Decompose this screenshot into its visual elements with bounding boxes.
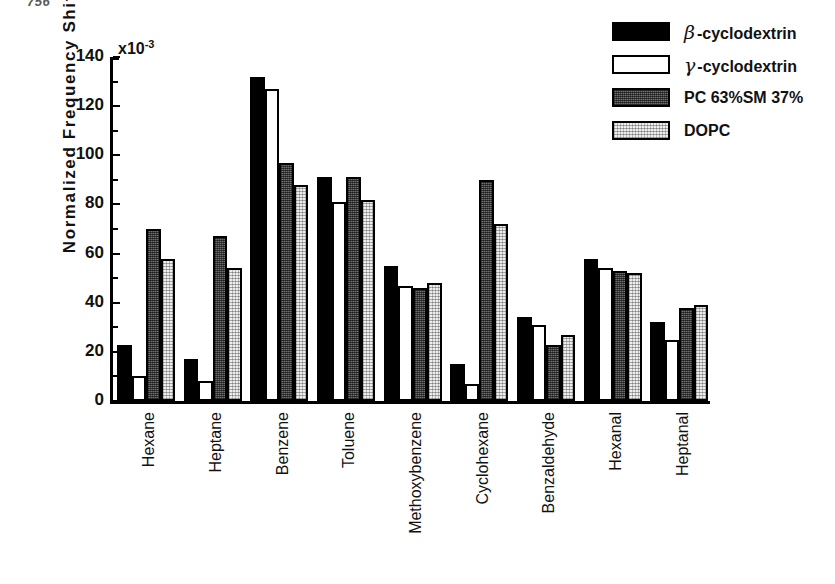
bar-group-methoxybenzene [384, 57, 447, 401]
legend-label-1: γ-cyclodextrin [684, 54, 797, 76]
bar-benzene-series-0 [250, 77, 265, 401]
bar-benzaldehyde-series-0 [517, 317, 532, 401]
page-folio: 756 [27, 0, 50, 9]
legend-row-1[interactable]: γ-cyclodextrin [612, 51, 832, 78]
x-category-label-hexane: Hexane [140, 412, 158, 467]
bar-methoxybenzene-series-1 [398, 286, 413, 401]
bar-toluene-series-2 [346, 177, 361, 401]
legend-greek-symbol-1: γ [684, 54, 697, 76]
bar-benzaldehyde-series-2 [546, 345, 561, 402]
legend-greek-symbol-0: β [684, 21, 697, 43]
x-category-label-heptane: Heptane [207, 412, 225, 473]
y-axis-title: Normalized Frequency Shift [60, 0, 80, 270]
y-tick-label-120: 120 [76, 95, 104, 115]
bar-hexane-series-1 [132, 376, 147, 401]
bar-hexanal-series-1 [598, 268, 613, 401]
x-category-label-cyclohexane: Cyclohexane [474, 412, 492, 505]
bar-hexane-series-0 [117, 345, 132, 402]
bar-benzaldehyde-series-1 [532, 325, 547, 401]
bar-toluene-series-0 [317, 177, 332, 401]
legend-row-3[interactable]: DOPC [612, 117, 832, 144]
y-tick-label-20: 20 [85, 341, 104, 361]
bar-heptane-series-3 [227, 268, 242, 401]
y-axis-scale-exponent: x10-3 [118, 38, 154, 58]
bar-benzaldehyde-series-3 [561, 335, 576, 401]
bar-benzene-series-1 [265, 89, 280, 401]
bar-cyclohexane-series-1 [465, 384, 480, 401]
bar-group-benzene [250, 57, 313, 401]
bar-benzene-series-3 [294, 185, 309, 401]
y-tick-label-0: 0 [95, 390, 104, 410]
y-tick-label-80: 80 [85, 193, 104, 213]
bar-methoxybenzene-series-0 [384, 266, 399, 401]
bar-heptane-series-1 [198, 381, 213, 401]
bar-hexane-series-3 [161, 259, 176, 402]
bar-heptanal-series-1 [665, 340, 680, 401]
legend-row-2[interactable]: PC 63%SM 37% [612, 84, 832, 111]
legend-label-3: DOPC [684, 122, 730, 140]
bar-heptanal-series-0 [650, 322, 665, 401]
legend-row-0[interactable]: β-cyclodextrin [612, 18, 832, 45]
bar-hexanal-series-2 [613, 271, 628, 401]
legend-label-0: β-cyclodextrin [684, 21, 797, 43]
bar-group-benzaldehyde [517, 57, 580, 401]
x-category-label-heptanal: Heptanal [674, 412, 692, 476]
bar-group-heptane [184, 57, 247, 401]
x-category-label-hexanal: Hexanal [607, 412, 625, 471]
x-category-label-benzaldehyde: Benzaldehyde [540, 412, 558, 513]
y-tick-label-40: 40 [85, 292, 104, 312]
exponent-base: x10 [118, 40, 145, 57]
y-tick-label-140: 140 [76, 46, 104, 66]
bar-methoxybenzene-series-3 [427, 283, 442, 401]
bar-heptane-series-2 [213, 236, 228, 401]
legend-swatch-open-white [612, 55, 670, 74]
legend-swatch-dark-gray-hatch [612, 88, 670, 107]
figure-page: 756 Normalized Frequency Shift x10-3 020… [0, 0, 835, 584]
legend-swatch-solid-black [612, 22, 670, 41]
bar-toluene-series-3 [361, 200, 376, 401]
bar-toluene-series-1 [332, 202, 347, 401]
bar-group-hexane [117, 57, 180, 401]
exponent-power: -3 [145, 38, 155, 50]
x-category-label-toluene: Toluene [340, 412, 358, 468]
y-tick-label-100: 100 [76, 144, 104, 164]
y-tick-label-60: 60 [85, 243, 104, 263]
bar-group-toluene [317, 57, 380, 401]
bar-hexanal-series-3 [627, 273, 642, 401]
x-category-label-benzene: Benzene [274, 412, 292, 475]
legend-swatch-light-gray-hatch [612, 121, 670, 140]
chart-legend: β-cyclodextrinγ-cyclodextrinPC 63%SM 37%… [612, 18, 832, 150]
bar-hexanal-series-0 [584, 259, 599, 402]
bar-methoxybenzene-series-2 [413, 288, 428, 401]
bar-heptanal-series-2 [679, 308, 694, 401]
bar-heptane-series-0 [184, 359, 199, 401]
bar-cyclohexane-series-2 [479, 180, 494, 401]
bar-cyclohexane-series-3 [494, 224, 509, 401]
legend-label-2: PC 63%SM 37% [684, 89, 803, 107]
bar-group-cyclohexane [450, 57, 513, 401]
bar-hexane-series-2 [146, 229, 161, 401]
bar-benzene-series-2 [279, 163, 294, 401]
bar-heptanal-series-3 [694, 305, 709, 401]
bar-cyclohexane-series-0 [450, 364, 465, 401]
x-axis-line [110, 401, 710, 404]
x-category-label-methoxybenzene: Methoxybenzene [407, 412, 425, 534]
